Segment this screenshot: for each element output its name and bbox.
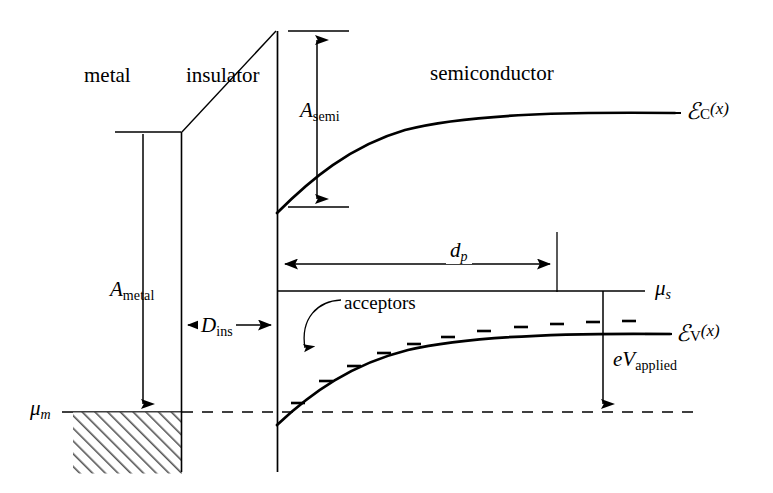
a-metal-base: A: [110, 277, 123, 301]
dp-subscript: p: [461, 249, 468, 264]
mu-s-subscript: s: [666, 287, 671, 302]
ec-base: ℰ: [686, 99, 700, 124]
semiconductor-chemical-potential-label: μs: [655, 278, 671, 302]
acceptors-label: acceptors: [344, 293, 416, 312]
region-label-insulator: insulator: [186, 65, 260, 86]
ev-applied-voltage: V: [622, 347, 635, 371]
applied-bias-label: eVapplied: [613, 349, 677, 373]
conduction-band-label: ℰC(x): [686, 100, 729, 123]
ev-applied-charge: e: [613, 347, 622, 371]
mu-m-subscript: m: [41, 407, 51, 422]
a-metal-subscript: metal: [123, 288, 155, 303]
acceptors-callout-arrow: [304, 300, 341, 348]
region-label-metal: metal: [84, 65, 131, 86]
ev-argument: (x): [701, 321, 720, 340]
d-ins-subscript: ins: [216, 324, 233, 339]
ec-subscript: C: [700, 106, 710, 122]
valence-band-label: ℰV(x): [676, 322, 720, 345]
metal-filled-states-block: [73, 413, 182, 474]
a-metal-label: Ametal: [110, 279, 154, 303]
a-semi-label: Asemi: [300, 100, 340, 124]
mu-s-base: μ: [655, 276, 666, 300]
depletion-width-label: dp: [446, 240, 472, 264]
d-ins-base: D: [201, 313, 216, 337]
metal-chemical-potential-label: μm: [30, 398, 51, 422]
band-diagram-figure: metal insulator semiconductor Asemi Amet…: [0, 0, 773, 493]
dp-base: d: [450, 238, 461, 262]
ev-subscript: V: [690, 328, 701, 344]
ev-applied-subscript: applied: [635, 358, 677, 373]
mu-m-base: μ: [30, 396, 41, 420]
conduction-band-curve: [277, 113, 675, 213]
a-semi-base: A: [300, 98, 313, 122]
ec-argument: (x): [710, 99, 729, 118]
a-semi-subscript: semi: [313, 109, 340, 124]
d-ins-label: Dins: [198, 315, 236, 339]
region-label-semiconductor: semiconductor: [430, 63, 554, 84]
ev-base: ℰ: [676, 321, 690, 346]
